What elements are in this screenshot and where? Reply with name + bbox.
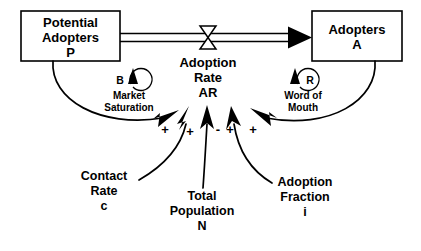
polarity-adopters-to-rate: + (249, 122, 257, 137)
stock-potential-adopters-line-2: Adopters (42, 30, 99, 45)
stock-adopters: Adopters A (312, 11, 402, 61)
flow-arrowhead (288, 27, 312, 49)
loop-balancing-arrowhead (128, 68, 138, 84)
stock-adopters-line-2: A (352, 37, 362, 52)
link-total-population-curve (203, 124, 207, 188)
stock-potential-adopters-line-3: P (66, 45, 75, 60)
aux-adoption-fraction: Adoption Fraction i (278, 175, 333, 219)
aux-total-population-line-2: Population (170, 204, 235, 218)
flow-pipe (120, 27, 312, 49)
aux-total-population-line-1: Total (188, 189, 217, 203)
aux-adoption-fraction-line-2: Fraction (280, 190, 329, 204)
aux-contact-rate-line-3: c (101, 199, 108, 213)
loop-reinforcing-label-line-2: Mouth (288, 102, 318, 113)
loop-balancing-id: B (116, 74, 124, 86)
flow-label-line-1: Adoption (179, 55, 236, 70)
diagram-canvas: Potential Adopters P Adopters A Adoption… (0, 0, 421, 251)
flow-label-line-3: AR (199, 85, 218, 100)
loop-marker-reinforcing: R Word of Mouth (284, 68, 322, 113)
stock-adopters-line-1: Adopters (328, 22, 385, 37)
flow-label-adoption-rate: Adoption Rate AR (179, 55, 236, 100)
loop-reinforcing-label-line-1: Word of (284, 90, 322, 101)
polarity-potential-to-rate: + (161, 122, 169, 137)
valve-bowtie (200, 26, 216, 49)
loop-balancing-label-line-1: Market (113, 90, 146, 101)
aux-adoption-fraction-line-3: i (303, 205, 306, 219)
link-total-population-to-adoption-rate: - (200, 105, 220, 188)
loop-reinforcing-arrowhead (290, 68, 300, 84)
loop-reinforcing-id: R (306, 74, 314, 86)
polarity-adoption-fraction-to-rate: + (226, 122, 234, 137)
aux-contact-rate-line-2: Rate (90, 184, 117, 198)
flow-label-line-2: Rate (194, 70, 222, 85)
polarity-contact-rate-to-rate: + (186, 124, 194, 139)
loop-balancing-label-line-2: Saturation (104, 102, 153, 113)
aux-contact-rate: Contact Rate c (81, 169, 128, 213)
stock-potential-adopters-line-1: Potential (43, 15, 98, 30)
aux-total-population-line-3: N (197, 219, 206, 233)
stock-potential-adopters: Potential Adopters P (21, 11, 120, 61)
loop-marker-balancing: B Market Saturation (104, 68, 153, 113)
aux-adoption-fraction-line-1: Adoption (278, 175, 333, 189)
aux-contact-rate-line-1: Contact (81, 169, 128, 183)
aux-total-population: Total Population N (170, 189, 235, 233)
polarity-total-population-to-rate: - (216, 122, 220, 137)
flow-valve-icon (200, 26, 216, 49)
